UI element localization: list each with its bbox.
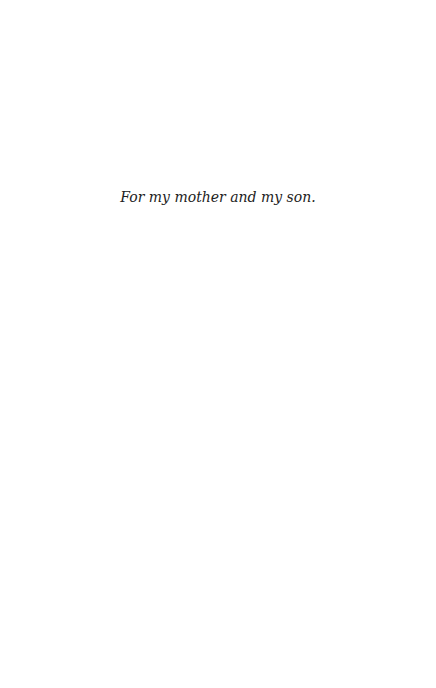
dedication-text: For my mother and my son.: [0, 189, 436, 205]
book-page: For my mother and my son.: [0, 0, 436, 688]
